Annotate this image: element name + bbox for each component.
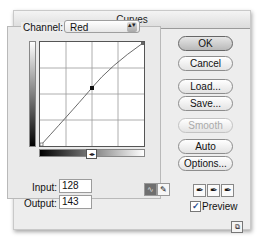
pencil-tool-icon[interactable]: ✎ (157, 183, 170, 196)
expand-view-icon[interactable]: ⧉ (231, 221, 243, 233)
preview-checkbox[interactable]: ✓ (190, 201, 201, 212)
output-gradient-bar (29, 41, 36, 147)
channel-value: Red (70, 22, 88, 33)
smooth-button[interactable]: Smooth (178, 118, 233, 133)
save-button[interactable]: Save... (178, 96, 233, 111)
gradient-toggle-slider[interactable]: ◂▸ (86, 149, 97, 159)
channel-label: Channel: (21, 22, 65, 33)
options-button[interactable]: Options... (178, 156, 233, 171)
gray-eyedropper-icon[interactable]: ✒ (207, 184, 220, 197)
curve-graph[interactable] (39, 41, 145, 147)
ok-button[interactable]: OK (178, 36, 233, 51)
curve-endpoint-white (141, 42, 144, 45)
output-field[interactable]: 143 (59, 195, 92, 209)
curve-grid-svg (40, 42, 144, 146)
black-eyedropper-icon[interactable]: ✒ (193, 184, 206, 197)
curve-control-point (90, 86, 94, 90)
cancel-button[interactable]: Cancel (178, 56, 233, 71)
input-field[interactable]: 128 (59, 179, 92, 193)
curve-endpoint-black (40, 143, 43, 146)
input-gradient-bar: ◂▸ (39, 149, 145, 157)
white-eyedropper-icon[interactable]: ✒ (221, 184, 234, 197)
load-button[interactable]: Load... (178, 79, 233, 94)
select-arrows-icon: ▴▾ (127, 22, 137, 32)
channel-select[interactable]: Red ▴▾ (64, 20, 140, 33)
input-label: Input: (32, 182, 57, 193)
curve-tool-icon[interactable]: ∿ (144, 183, 157, 196)
output-label: Output: (24, 198, 57, 209)
auto-button[interactable]: Auto (178, 139, 233, 154)
preview-label[interactable]: Preview (202, 201, 238, 212)
